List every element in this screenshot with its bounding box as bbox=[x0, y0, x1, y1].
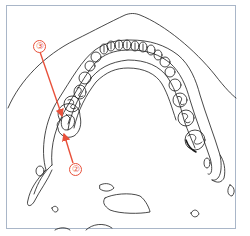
callout-2-label: ② bbox=[69, 163, 82, 176]
callout-arrows bbox=[0, 0, 250, 236]
callout-3-arrow bbox=[40, 52, 62, 116]
callout-2-arrow bbox=[64, 134, 73, 163]
callout-3-label: ③ bbox=[33, 40, 46, 53]
mandible-diagram: ③ ② bbox=[0, 0, 250, 236]
